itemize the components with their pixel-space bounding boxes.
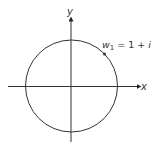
x-axis-label: x: [140, 81, 147, 92]
complex-plane-diagram: x y w1=1+i: [0, 0, 159, 147]
y-axis-label: y: [66, 6, 74, 17]
point-w1: [103, 53, 106, 56]
point-label: w1=1+i: [102, 39, 151, 52]
